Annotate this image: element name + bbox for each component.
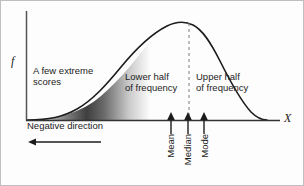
annotation-extreme-scores: A few extreme scores <box>33 66 93 87</box>
median-marker-arrow <box>184 112 192 134</box>
marker-label-mode: Mode <box>199 134 210 158</box>
mode-marker-arrow <box>200 112 208 134</box>
annotation-upper-half: Upper half of frequency <box>196 72 248 93</box>
plot-canvas <box>1 1 304 186</box>
x-axis-label: X <box>284 111 291 126</box>
marker-label-mean: Mean <box>165 134 176 158</box>
skewed-distribution-figure: f X A few extreme scores Lower half of f… <box>0 0 304 186</box>
annotation-lower-half: Lower half of frequency <box>125 72 177 93</box>
y-axis-label: f <box>11 54 14 69</box>
marker-label-median: Median <box>182 134 193 165</box>
annotation-negative-direction: Negative direction <box>27 121 103 132</box>
mean-marker-arrow <box>167 112 175 134</box>
negative-direction-arrow <box>28 139 101 146</box>
